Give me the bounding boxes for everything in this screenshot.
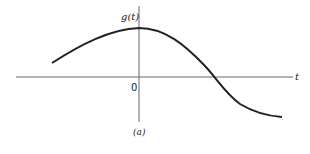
caption: (a) [133, 127, 146, 137]
origin-label: 0 [131, 82, 137, 93]
figure: g(t) t 0 (a) [0, 0, 310, 154]
g-curve [52, 28, 282, 117]
y-axis-label: g(t) [121, 11, 139, 22]
x-axis-label: t [295, 71, 300, 82]
